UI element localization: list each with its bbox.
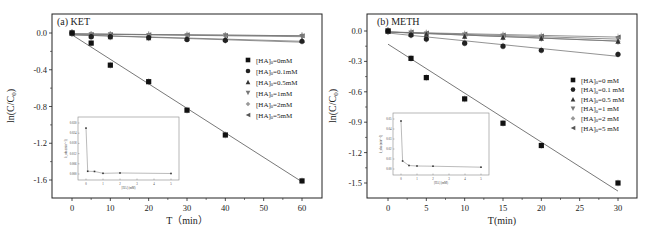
svg-text:0: 0 bbox=[400, 177, 402, 181]
data-point-marker bbox=[500, 44, 505, 49]
legend-entry: [HA]0=0.1mM bbox=[256, 68, 298, 77]
svg-text:0.018: 0.018 bbox=[70, 141, 77, 145]
figure: 01020304050600.0-0.4-0.8-1.2-1.6T（min）ln… bbox=[0, 0, 655, 237]
data-point-marker bbox=[615, 52, 620, 57]
y-tick-label: -0.8 bbox=[34, 102, 47, 112]
svg-text:0.01: 0.01 bbox=[386, 157, 392, 161]
svg-text:3: 3 bbox=[136, 182, 138, 186]
legend-marker bbox=[571, 78, 576, 83]
data-point-marker bbox=[539, 48, 544, 53]
data-point-marker bbox=[223, 38, 228, 43]
legend-marker bbox=[571, 126, 576, 131]
legend: [HA]0=0 mM[HA]0=0.1 mM[HA]0=0.5 mM[HA]0=… bbox=[571, 77, 625, 134]
panel-meth: 0510152025300.0-0.3-0.6-0.9-1.2-1.5T(min… bbox=[327, 14, 637, 227]
legend-marker bbox=[571, 97, 576, 102]
x-tick-label: 25 bbox=[575, 203, 584, 213]
svg-text:0.05: 0.05 bbox=[386, 117, 392, 121]
svg-text:0: 0 bbox=[85, 182, 87, 186]
legend-marker bbox=[246, 113, 251, 118]
legend-entry: [HA]0=0.5 mM bbox=[581, 96, 625, 105]
y-tick-label: -1.2 bbox=[349, 148, 362, 158]
legend: [HA]0=0mM[HA]0=0.1mM[HA]0=0.5mM[HA]0=1mM… bbox=[246, 57, 298, 121]
svg-text:3: 3 bbox=[448, 177, 450, 181]
x-tick-label: 5 bbox=[424, 203, 428, 213]
y-tick-label: -0.6 bbox=[349, 87, 362, 97]
data-point-marker bbox=[299, 178, 304, 183]
svg-text:0.030: 0.030 bbox=[70, 121, 77, 125]
data-point-marker bbox=[108, 34, 113, 39]
data-point-marker bbox=[424, 37, 429, 42]
data-point-marker bbox=[424, 75, 429, 80]
x-tick-label: 30 bbox=[614, 203, 623, 213]
legend-marker bbox=[246, 69, 251, 74]
x-tick-label: 50 bbox=[259, 203, 268, 213]
data-point-marker bbox=[89, 34, 94, 39]
data-point-marker bbox=[146, 35, 151, 40]
legend-marker bbox=[571, 87, 576, 92]
inset-x-label: [HA] (mM) bbox=[434, 181, 448, 185]
x-tick-label: 0 bbox=[386, 203, 390, 213]
x-axis-label: T（min） bbox=[166, 215, 208, 226]
panel-ket: 01020304050600.0-0.4-0.8-1.2-1.6T（min）ln… bbox=[5, 14, 322, 226]
svg-text:0.04: 0.04 bbox=[386, 127, 392, 131]
legend-marker bbox=[246, 58, 251, 63]
svg-text:1: 1 bbox=[102, 182, 104, 186]
y-tick-label: 0.0 bbox=[351, 26, 362, 36]
legend-entry: [HA]0=0mM bbox=[256, 57, 293, 66]
data-point-marker bbox=[385, 28, 390, 33]
y-axis-label: ln(C/C0) bbox=[5, 89, 18, 123]
data-point-marker bbox=[408, 56, 413, 61]
data-point-marker bbox=[223, 132, 228, 137]
data-point-marker bbox=[108, 63, 113, 68]
x-tick-label: 60 bbox=[298, 203, 307, 213]
x-tick-label: 15 bbox=[499, 203, 508, 213]
x-tick-label: 10 bbox=[460, 203, 469, 213]
data-point-marker bbox=[408, 32, 413, 37]
inset-plot: 0.000.010.020.030.040.05012345[HA] (mM)k… bbox=[379, 113, 489, 185]
legend-entry: [HA]0=1mM bbox=[256, 90, 293, 99]
svg-text:4: 4 bbox=[464, 177, 466, 181]
legend-entry: [HA]0=2mM bbox=[256, 101, 293, 110]
data-point-marker bbox=[539, 143, 544, 148]
inset-y-label: k_obs (min^-1) bbox=[64, 139, 68, 158]
data-point-marker bbox=[184, 108, 189, 113]
y-tick-label: -1.6 bbox=[34, 175, 47, 185]
svg-text:0.000: 0.000 bbox=[70, 172, 77, 176]
x-tick-label: 20 bbox=[144, 203, 153, 213]
svg-text:2: 2 bbox=[432, 177, 434, 181]
svg-text:0.012: 0.012 bbox=[70, 152, 77, 156]
inset-x-label: [HA] (mM) bbox=[121, 186, 135, 190]
svg-text:1: 1 bbox=[416, 177, 418, 181]
panel-title: (a) KET bbox=[57, 16, 90, 28]
legend-marker bbox=[246, 91, 251, 96]
legend-marker bbox=[571, 116, 576, 121]
svg-text:0.02: 0.02 bbox=[386, 147, 392, 151]
data-point-marker bbox=[89, 41, 94, 46]
legend-entry: [HA]0=0 mM bbox=[581, 77, 620, 86]
svg-text:0.006: 0.006 bbox=[70, 162, 77, 166]
legend-entry: [HA]0=0.5mM bbox=[256, 79, 298, 88]
y-axis-label: ln(C/C0) bbox=[327, 89, 340, 123]
data-point-marker bbox=[69, 30, 74, 35]
svg-text:4: 4 bbox=[153, 182, 155, 186]
svg-text:5: 5 bbox=[480, 177, 482, 181]
panel-title: (b) METH bbox=[377, 16, 420, 28]
x-tick-label: 20 bbox=[537, 203, 546, 213]
inset-plot: 0.0000.0060.0120.0180.0240.030012345[HA]… bbox=[64, 117, 179, 190]
data-point-marker bbox=[462, 96, 467, 101]
legend-entry: [HA]0=1 mM bbox=[581, 105, 620, 114]
y-tick-label: -1.2 bbox=[34, 138, 47, 148]
data-point-marker bbox=[462, 41, 467, 46]
data-point-marker bbox=[615, 180, 620, 185]
legend-entry: [HA]0=0.1 mM bbox=[581, 86, 625, 95]
data-point-marker bbox=[299, 39, 304, 44]
x-tick-label: 40 bbox=[221, 203, 230, 213]
data-point-marker bbox=[146, 79, 151, 84]
data-point-marker bbox=[500, 121, 505, 126]
x-tick-label: 0 bbox=[70, 203, 74, 213]
y-tick-label: -0.4 bbox=[34, 65, 48, 75]
svg-text:0.00: 0.00 bbox=[386, 167, 392, 171]
legend-marker bbox=[571, 107, 576, 112]
svg-text:0.024: 0.024 bbox=[70, 131, 77, 135]
x-axis-label: T(min) bbox=[488, 215, 516, 227]
